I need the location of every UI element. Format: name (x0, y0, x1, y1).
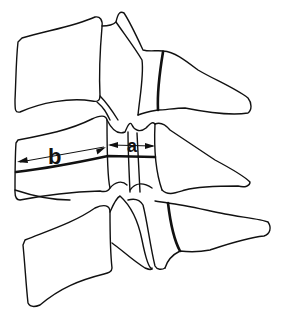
lower-spinous-base (155, 201, 168, 203)
upper-spinous-boundary (158, 52, 163, 110)
middle-spinous-process (155, 123, 250, 193)
label-a: a (127, 136, 138, 156)
measurement-baseline (16, 156, 155, 172)
middle-lower-facets (110, 182, 152, 190)
upper-vertebral-body (15, 17, 102, 112)
vertebrae-diagram: b a (0, 0, 286, 326)
lower-vertebral-body (23, 206, 112, 307)
upper-posterior-lower (138, 110, 158, 115)
lower-spinous-process (165, 203, 270, 268)
upper-spinous-process (158, 51, 251, 114)
label-b: b (48, 144, 61, 169)
lower-upper-edge (15, 190, 70, 200)
upper-lamina (116, 22, 143, 115)
measurement-b (17, 147, 106, 163)
middle-articular-left (107, 120, 155, 133)
lower-spinous-boundary (168, 203, 180, 251)
